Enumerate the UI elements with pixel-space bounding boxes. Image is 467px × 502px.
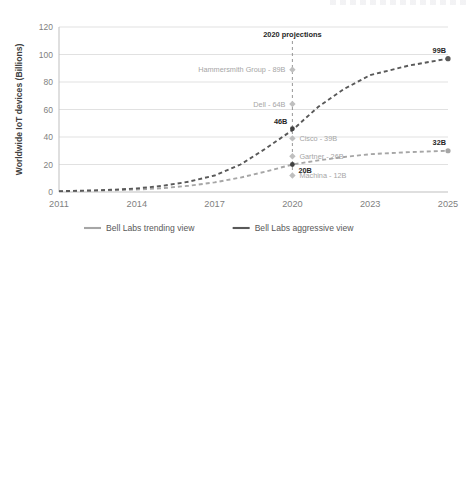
x-tick-label: 2025	[438, 199, 458, 209]
series-end-label: 99B	[433, 46, 446, 55]
projection-point-marker	[289, 153, 295, 159]
point-data-label: 46B	[274, 117, 287, 126]
y-tick-label: 100	[39, 50, 53, 60]
projection-annotation: Hammersmith Group - 89B	[198, 65, 285, 74]
projection-point-marker	[289, 66, 295, 72]
series-line-bell-labs-aggressive-view	[59, 59, 448, 192]
y-tick-label: 80	[44, 77, 54, 87]
y-tick-label: 60	[44, 105, 54, 115]
page-root: 020406080100120201120142017202020232025W…	[0, 0, 467, 502]
point-marker	[290, 126, 295, 131]
point-data-label: 20B	[298, 166, 311, 175]
x-tick-label: 2023	[360, 199, 380, 209]
point-marker	[290, 162, 295, 167]
x-tick-label: 2011	[49, 199, 69, 209]
series-endpoint-marker	[445, 56, 450, 61]
series-line-bell-labs-trending-view	[59, 151, 448, 192]
x-tick-label: 2014	[127, 199, 147, 209]
chart-top-canvas: 020406080100120201120142017202020232025W…	[0, 0, 467, 252]
chart-bottom-canvas: 0510152025302011201320152017201920212023…	[0, 252, 467, 502]
y-tick-label: 20	[44, 160, 54, 170]
projection-annotation: Dell - 64B	[253, 100, 285, 109]
projection-point-marker	[289, 172, 295, 178]
projection-point-marker	[289, 101, 295, 107]
y-axis-title: Worldwide IoT devices (Billions)	[14, 44, 24, 176]
projection-annotation: Cisco - 39B	[299, 134, 337, 143]
chart-worldwide-iot-devices: 020406080100120201120142017202020232025W…	[0, 0, 467, 252]
legend-label: Bell Labs trending view	[106, 223, 195, 233]
projection-marker-label: 2020 projections	[263, 30, 321, 39]
legend-label: Bell Labs aggressive view	[255, 223, 355, 233]
projection-annotation: Gartner - 26B	[299, 152, 343, 161]
y-tick-label: 40	[44, 132, 54, 142]
series-end-label: 32B	[433, 138, 446, 147]
x-tick-label: 2020	[282, 199, 302, 209]
chart-worldwide-cellular-iot-devices: 0510152025302011201320152017201920212023…	[0, 252, 467, 502]
x-tick-label: 2017	[204, 199, 224, 209]
y-tick-label: 120	[39, 22, 53, 32]
y-tick-label: 0	[48, 187, 53, 197]
series-endpoint-marker	[445, 148, 450, 153]
projection-point-marker	[289, 135, 295, 141]
